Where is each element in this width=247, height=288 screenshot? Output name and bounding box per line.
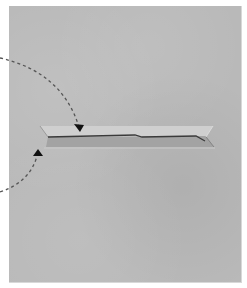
lower-arrowhead-icon [33,149,43,156]
slit-lower-band [46,136,214,147]
diagram-overlay [0,0,247,288]
upper-arrow-path [0,58,79,127]
lower-arrow-path [0,156,37,192]
diagram-canvas [0,0,247,288]
